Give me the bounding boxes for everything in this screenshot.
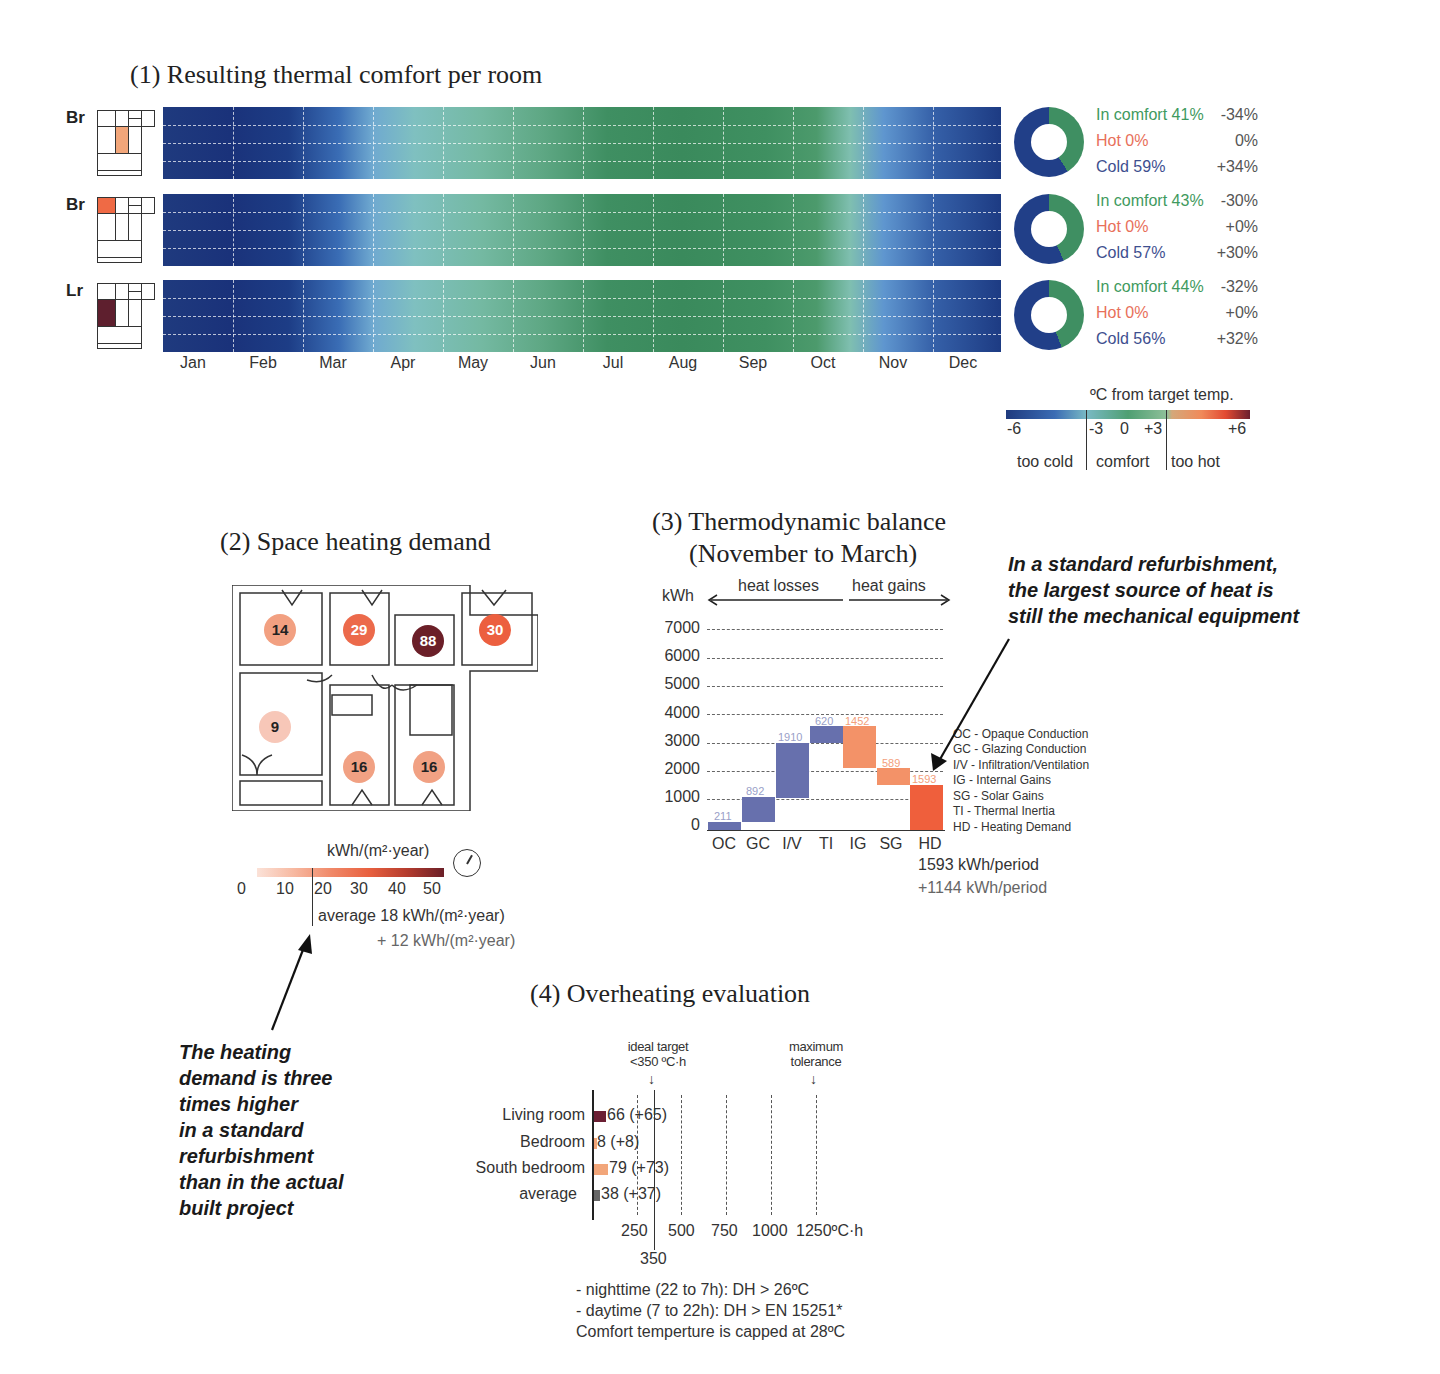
room-label: Br: [66, 108, 85, 128]
bar-iv: [776, 743, 809, 798]
month-label: Nov: [879, 354, 907, 372]
in-comfort-delta: -32%: [1198, 278, 1258, 296]
row-label: Living room: [460, 1106, 585, 1124]
y-tick: 6000: [650, 647, 700, 665]
heating-demand-bubble: 16: [413, 751, 445, 783]
highlighted-room: [97, 299, 116, 327]
month-label: Apr: [391, 354, 416, 372]
scale-tick: 50: [423, 880, 441, 898]
scale-tick: 30: [350, 880, 368, 898]
month-label: Jul: [603, 354, 623, 372]
overheating-bar: [594, 1111, 606, 1122]
cold-delta: +30%: [1198, 244, 1258, 262]
bar-value-label: 1452: [845, 715, 869, 727]
y-tick: 7000: [650, 619, 700, 637]
x-tick: 750: [711, 1222, 738, 1240]
bar-ig: [843, 726, 876, 768]
section3-subtitle: (November to March): [689, 539, 917, 569]
hd-total: 1593 kWh/period: [918, 856, 1039, 874]
hd-delta: +1144 kWh/period: [918, 879, 1047, 897]
zone-label: too cold: [1017, 453, 1073, 471]
x-category: HD: [918, 835, 941, 853]
highlighted-room: [97, 197, 116, 214]
x-category: GC: [746, 835, 770, 853]
x-tick: 500: [668, 1222, 695, 1240]
colorbar-title: ºC from target temp.: [1090, 386, 1234, 404]
room-plan-icon: [97, 110, 155, 176]
bar-value-label: 211: [714, 810, 732, 822]
room-label: Br: [66, 195, 85, 215]
heating-demand-bubble: 29: [343, 614, 375, 646]
hot-delta: 0%: [1198, 132, 1258, 150]
bar-hd: [910, 785, 943, 830]
comfort-heatmap: [163, 107, 1001, 179]
room-plan-icon: [97, 283, 155, 349]
bar-value-label: 892: [746, 785, 764, 797]
heating-demand-bubble: 14: [264, 614, 296, 646]
colorbar: [1006, 410, 1250, 419]
heating-demand-bubble: 16: [343, 751, 375, 783]
maximum-tolerance-label: maximum tolerance: [780, 1039, 852, 1069]
cold-delta: +34%: [1198, 158, 1258, 176]
colorbar-tick: -3: [1089, 420, 1103, 438]
y-tick: 2000: [650, 760, 700, 778]
hot-stat: Hot 0%: [1096, 132, 1148, 150]
row-label: Bedroom: [460, 1133, 585, 1151]
section1-title: (1) Resulting thermal comfort per room: [130, 60, 542, 90]
in-comfort-stat: In comfort 41%: [1096, 106, 1204, 124]
in-comfort-stat: In comfort 44%: [1096, 278, 1204, 296]
comfort-heatmap: [163, 280, 1001, 352]
x-category: IG: [850, 835, 867, 853]
bar-value-label: 1910: [778, 731, 802, 743]
cold-stat: Cold 59%: [1096, 158, 1165, 176]
comfort-donut-chart: [1014, 194, 1084, 264]
colorbar-tick: 0: [1120, 420, 1129, 438]
cold-delta: +32%: [1198, 330, 1258, 348]
hot-stat: Hot 0%: [1096, 304, 1148, 322]
month-label: Sep: [739, 354, 767, 372]
demand-colorbar: [257, 868, 444, 877]
bar-gc: [742, 797, 775, 822]
bar-oc: [708, 822, 741, 830]
hot-stat: Hot 0%: [1096, 218, 1148, 236]
y-tick: 0: [650, 816, 700, 834]
double-arrow-icon: [705, 592, 955, 608]
month-label: Jan: [180, 354, 206, 372]
bar-value-label: 620: [815, 715, 833, 727]
arrow-icon: [925, 635, 1015, 775]
heating-demand-bubble: 88: [412, 625, 444, 657]
x-category: I/V: [782, 835, 802, 853]
x-category: OC: [712, 835, 736, 853]
comfort-donut-chart: [1014, 280, 1084, 350]
scale-tick: 40: [388, 880, 406, 898]
heating-demand-bubble: 9: [259, 711, 291, 743]
ideal-target-marker: 350: [640, 1250, 667, 1268]
scale-unit: kWh/(m²·year): [327, 842, 429, 860]
month-label: Oct: [811, 354, 836, 372]
row-label: South bedroom: [460, 1159, 585, 1177]
down-arrow-icon: ↓: [810, 1071, 817, 1087]
hot-delta: +0%: [1198, 218, 1258, 236]
month-label: Mar: [319, 354, 347, 372]
in-comfort-delta: -30%: [1198, 192, 1258, 210]
zone-label: comfort: [1096, 453, 1149, 471]
highlighted-room: [115, 126, 129, 154]
section2-title: (2) Space heating demand: [220, 527, 491, 557]
cold-stat: Cold 56%: [1096, 330, 1165, 348]
cold-stat: Cold 57%: [1096, 244, 1165, 262]
y-tick: 4000: [650, 704, 700, 722]
colorbar-tick: -6: [1007, 420, 1021, 438]
y-axis-label: kWh: [662, 587, 694, 605]
month-label: Aug: [669, 354, 697, 372]
x-tick: 1250ºC·h: [796, 1222, 863, 1240]
annotation-mechanical-equipment: In a standard refurbishment, the largest…: [1008, 551, 1299, 629]
comfort-donut-chart: [1014, 107, 1084, 177]
annotation-heating-demand: The heating demand is three times higher…: [179, 1039, 343, 1221]
x-tick: 1000: [752, 1222, 788, 1240]
month-label: Feb: [249, 354, 277, 372]
average-label: average 18 kWh/(m²·year): [318, 907, 505, 925]
in-comfort-delta: -34%: [1198, 106, 1258, 124]
row-value: 79 (+73): [609, 1159, 669, 1177]
comfort-heatmap: [163, 194, 1001, 266]
arrow-icon: [260, 930, 320, 1035]
